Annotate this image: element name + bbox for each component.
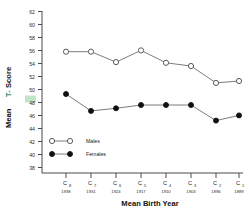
series-males-line	[66, 50, 239, 83]
data-point-females	[64, 92, 69, 97]
x-category-code: C	[163, 180, 167, 186]
x-category-year: 1889	[234, 189, 244, 194]
x-category-year: 1903	[186, 189, 196, 194]
data-point-males	[138, 48, 143, 53]
data-point-males	[236, 78, 241, 83]
x-axis-category-labels: C 8 1938 C 7 1931 C 6 1924 C 5 1917 C 4 …	[61, 180, 244, 194]
y-tick-label: 52	[29, 74, 35, 80]
x-category-subscript: 6	[119, 183, 121, 188]
x-category-code: C	[236, 180, 240, 186]
x-category-code: C	[88, 180, 92, 186]
y-tick-label: 54	[29, 61, 35, 67]
x-category-code: C	[113, 180, 117, 186]
y-tick-label: 62	[29, 9, 35, 15]
x-category-year: 1896	[211, 189, 221, 194]
x-category-subscript: 8	[69, 183, 71, 188]
data-point-females	[89, 108, 94, 113]
y-axis-ticks: 62 60 58 56 54 52 50 48 46 44 42 40 3	[25, 9, 42, 171]
x-category-subscript: 3	[194, 183, 196, 188]
line-chart: Mean T- Score 62 60 58 56 54 52 50 48	[0, 0, 249, 212]
data-point-females	[237, 113, 242, 118]
data-point-males	[113, 60, 118, 65]
x-category-code: C	[138, 180, 142, 186]
y-tick-label: 60	[29, 22, 35, 28]
legend-marker-males	[67, 138, 72, 143]
y-axis-title-prefix: Mean	[4, 108, 13, 128]
data-point-males	[63, 49, 68, 54]
series-females	[64, 92, 242, 124]
x-axis-title: Mean Birth Year	[121, 199, 178, 208]
y-axis-title-suffix: Score	[4, 67, 13, 88]
x-category-code: C	[188, 180, 192, 186]
y-tick-label: 56	[29, 48, 35, 54]
x-category-subscript: 7	[94, 183, 96, 188]
x-category-year: 1917	[136, 189, 146, 194]
data-point-females	[164, 103, 169, 108]
y-tick-label: 44	[29, 126, 35, 132]
y-axis-title: Mean T- Score	[4, 67, 13, 128]
y-tick-label: 42	[29, 139, 35, 145]
x-category-year: 1910	[161, 189, 171, 194]
data-point-females	[139, 103, 144, 108]
y-tick-label: 40	[29, 152, 35, 158]
series-males	[63, 48, 241, 86]
x-category-code: C	[63, 180, 67, 186]
y-tick-label: 38	[29, 165, 35, 171]
x-category-year: 1924	[111, 189, 121, 194]
data-point-females	[214, 118, 219, 123]
legend-marker-females	[50, 152, 55, 157]
data-point-females	[114, 106, 119, 111]
y-axis-title-accent: T-	[4, 90, 13, 97]
y-tick-label: 50	[29, 87, 35, 93]
x-category-subscript: 5	[144, 183, 146, 188]
x-category-subscript: 1	[242, 183, 244, 188]
legend-marker-males	[49, 138, 54, 143]
y-tick-label: 46	[29, 113, 35, 119]
y-tick-label-highlighted: 48	[29, 100, 35, 106]
x-category-subscript: 2	[219, 183, 221, 188]
legend: Males Females	[49, 138, 106, 157]
x-category-code: C	[213, 180, 217, 186]
x-axis-ticks	[66, 173, 239, 178]
data-point-males	[163, 60, 168, 65]
y-tick-label: 58	[29, 35, 35, 41]
x-category-year: 1938	[61, 189, 71, 194]
x-category-year: 1931	[86, 189, 96, 194]
data-point-males	[213, 80, 218, 85]
legend-label-females: Females	[86, 151, 106, 157]
x-category-subscript: 4	[169, 183, 172, 188]
chart-container: Mean T- Score 62 60 58 56 54 52 50 48	[0, 0, 249, 212]
legend-label-males: Males	[86, 138, 100, 144]
legend-marker-females	[68, 152, 73, 157]
data-point-males	[188, 63, 193, 68]
data-point-females	[189, 103, 194, 108]
data-point-males	[88, 49, 93, 54]
series-females-line	[66, 94, 239, 121]
